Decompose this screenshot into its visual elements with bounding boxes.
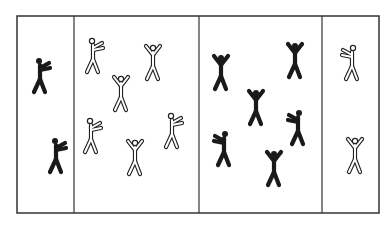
dark-player-icon <box>267 151 281 185</box>
dark-player-icon <box>288 43 302 77</box>
light-player-icon <box>128 140 142 174</box>
dark-player-icon <box>214 55 228 89</box>
light-player-icon <box>114 76 128 110</box>
light-player-icon <box>348 138 362 172</box>
light-player-icon <box>342 45 357 79</box>
light-player-icon <box>87 38 103 72</box>
dark-player-icon <box>249 90 263 124</box>
dark-player-icon <box>34 58 50 92</box>
light-player-icon <box>166 113 182 147</box>
players <box>34 38 362 185</box>
dark-player-icon <box>214 131 229 165</box>
court-boundary <box>17 16 379 213</box>
court-diagram <box>0 0 389 226</box>
zone-dividers <box>74 16 322 213</box>
dark-player-icon <box>288 110 303 144</box>
dark-player-icon <box>50 138 66 172</box>
light-player-icon <box>85 118 101 152</box>
light-player-icon <box>146 45 160 79</box>
